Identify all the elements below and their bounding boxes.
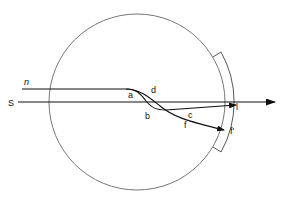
label-f-end: f' (230, 126, 235, 136)
label-b: b (145, 111, 150, 121)
label-d: d (151, 85, 156, 95)
label-c: c (188, 110, 193, 120)
label-a: a (128, 90, 133, 100)
label-l: l (236, 102, 238, 112)
label-f-mid: f (184, 120, 187, 130)
eye-diagram: n S a d b c f l f' (0, 0, 286, 204)
label-s: S (8, 98, 14, 108)
label-n: n (24, 77, 29, 87)
